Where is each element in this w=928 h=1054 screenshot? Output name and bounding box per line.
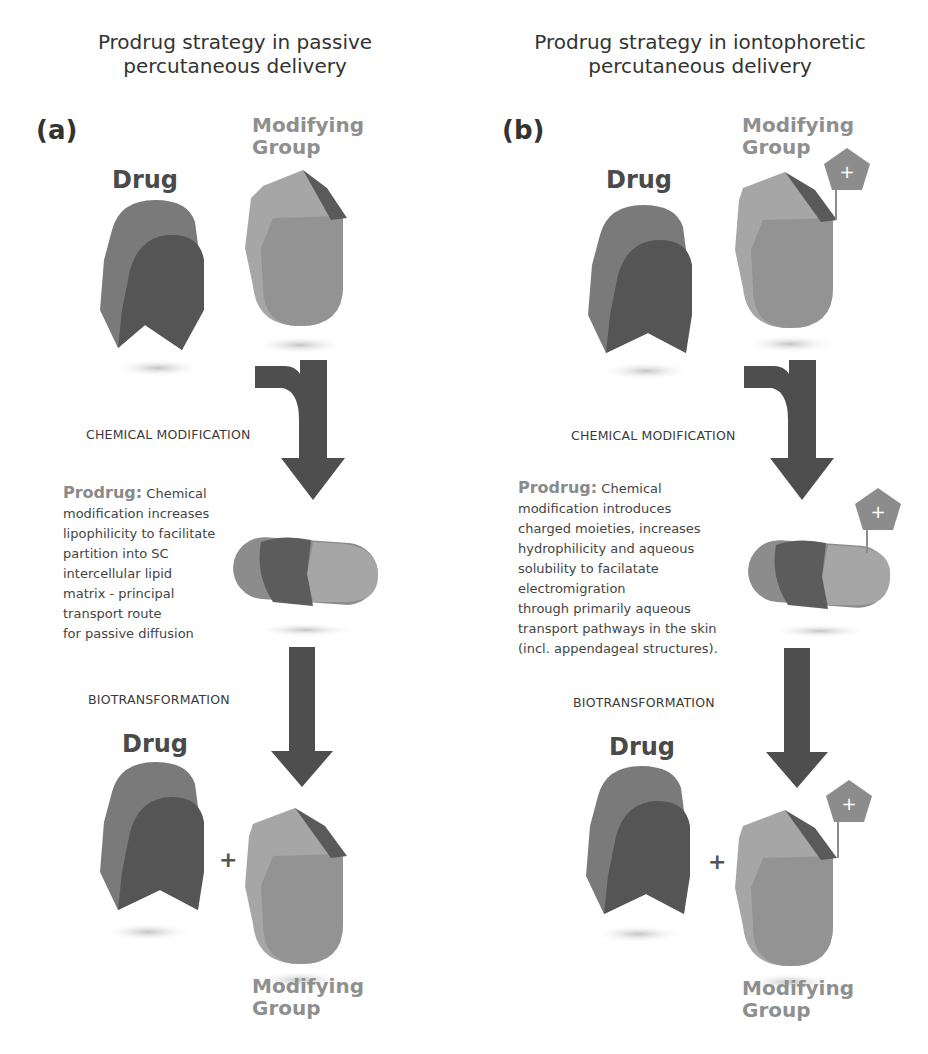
desc-line: intercellular lipid [63, 566, 172, 581]
svg-text:+: + [841, 793, 856, 814]
positive-charge-icon: + [824, 148, 874, 218]
chemical-modification-arrow-icon [255, 360, 335, 500]
panel-b-title: Prodrug strategy in iontophoretic percut… [500, 30, 900, 78]
desc-line: Chemical [601, 481, 661, 496]
biotransformation-arrow-icon [283, 647, 343, 787]
chemical-modification-arrow-icon [744, 360, 824, 500]
positive-charge-icon: + [826, 780, 876, 850]
desc-line: partition into SC [63, 546, 169, 561]
biotransformation-arrow-icon [778, 648, 838, 788]
desc-line: transport pathways in the skin [518, 621, 717, 636]
modifying-group-shape-icon [245, 168, 365, 353]
plus-sign: + [219, 847, 237, 872]
modifying-group-label-bottom: Modifying Group [252, 975, 364, 1019]
label-line-1: Modifying [742, 977, 854, 999]
drug-shape-bottom-icon [100, 762, 220, 942]
desc-line: solubility to facilatate [518, 561, 659, 576]
panel-label: (a) [36, 115, 77, 145]
drug-label: Drug [112, 166, 178, 194]
svg-text:+: + [870, 501, 885, 522]
title-line-1: Prodrug strategy in passive [40, 30, 430, 54]
desc-line: charged moieties, increases [518, 521, 701, 536]
label-line-2: Group [252, 136, 364, 158]
label-line-2: Group [742, 999, 854, 1021]
prodrug-description: Prodrug: Chemical modification increases… [63, 483, 243, 644]
step-label-biotransformation: BIOTRANSFORMATION [88, 692, 230, 707]
drug-label: Drug [606, 166, 672, 194]
desc-line: Chemical [146, 486, 206, 501]
drug-shape-icon [100, 200, 220, 380]
step-label-chemical-modification: CHEMICAL MODIFICATION [86, 427, 251, 442]
title-line-1: Prodrug strategy in iontophoretic [500, 30, 900, 54]
modifying-group-label: Modifying Group [252, 114, 364, 158]
prodrug-description: Prodrug: Chemical modification introduce… [518, 478, 748, 659]
label-line-1: Modifying [252, 975, 364, 997]
panel-label: (b) [502, 115, 544, 145]
modifying-group-label-bottom: Modifying Group [742, 977, 854, 1021]
prodrug-heading: Prodrug: [63, 483, 142, 502]
positive-charge-icon: + [855, 488, 905, 558]
prodrug-capsule-icon [233, 534, 383, 644]
panel-a-title: Prodrug strategy in passive percutaneous… [40, 30, 430, 78]
desc-line: electromigration [518, 581, 626, 596]
drug-shape-icon [588, 205, 708, 385]
desc-line: lipophilicity to facilitate [63, 526, 215, 541]
prodrug-heading: Prodrug: [518, 478, 597, 497]
desc-line: for passive diffusion [63, 626, 194, 641]
drug-label-bottom: Drug [609, 733, 675, 761]
desc-line: modification introduces [518, 501, 671, 516]
svg-text:+: + [839, 161, 854, 182]
drug-shape-bottom-icon [586, 766, 706, 946]
step-label-biotransformation: BIOTRANSFORMATION [573, 695, 715, 710]
desc-line: matrix - principal [63, 586, 174, 601]
label-line-2: Group [252, 997, 364, 1019]
drug-label-bottom: Drug [122, 730, 188, 758]
desc-line: transport route [63, 606, 162, 621]
title-line-2: percutaneous delivery [40, 54, 430, 78]
desc-line: hydrophilicity and aqueous [518, 541, 694, 556]
label-line-1: Modifying [742, 114, 854, 136]
step-label-chemical-modification: CHEMICAL MODIFICATION [571, 428, 736, 443]
desc-line: modification increases [63, 506, 209, 521]
desc-line: (incl. appendageal structures). [518, 641, 718, 656]
title-line-2: percutaneous delivery [500, 54, 900, 78]
desc-line: through primarily aqueous [518, 601, 691, 616]
modifying-group-shape-bottom-icon [245, 806, 365, 991]
label-line-1: Modifying [252, 114, 364, 136]
plus-sign: + [708, 849, 726, 874]
